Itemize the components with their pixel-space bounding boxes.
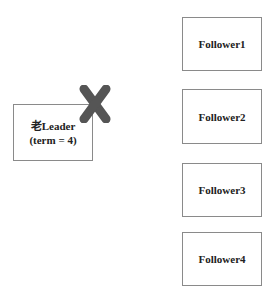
follower-node-1: Follower1 (182, 17, 262, 71)
follower-label: Follower4 (198, 252, 245, 266)
follower-label: Follower1 (198, 37, 245, 51)
follower-node-2: Follower2 (182, 89, 262, 144)
follower-node-3: Follower3 (182, 163, 262, 217)
follower-label: Follower2 (198, 110, 245, 124)
leader-label: 老Leader (29, 119, 76, 133)
follower-node-4: Follower4 (182, 232, 262, 286)
cross-icon (79, 85, 111, 123)
leader-term: (term = 4) (29, 133, 76, 147)
follower-label: Follower3 (198, 183, 245, 197)
